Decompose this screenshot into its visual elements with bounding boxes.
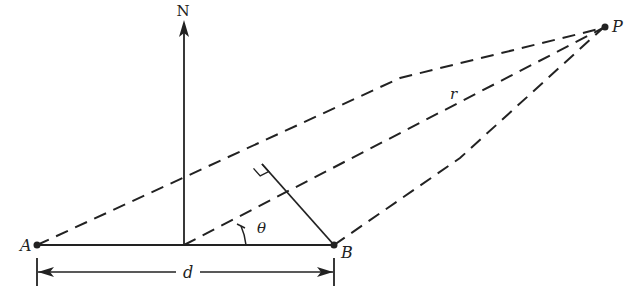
right-angle-marker [254,164,269,176]
perpendicular-line [262,164,334,245]
point-b-label: B [340,243,353,262]
angle-arc-theta [241,226,246,245]
range-line-r [184,28,603,245]
point-b-dot [331,242,338,249]
north-label: N [176,2,189,20]
point-p-label: P [611,17,623,36]
point-a-label: A [18,236,32,255]
point-p-dot [602,24,609,31]
range-label-r: r [450,85,458,103]
path-from-a [37,28,603,245]
angle-label-theta: θ [257,219,266,237]
separation-label-d: d [183,263,193,282]
point-a-dot [34,242,41,249]
diagram-canvas: N θ A B P r d [0,0,636,305]
north-arrow-icon [179,20,189,245]
